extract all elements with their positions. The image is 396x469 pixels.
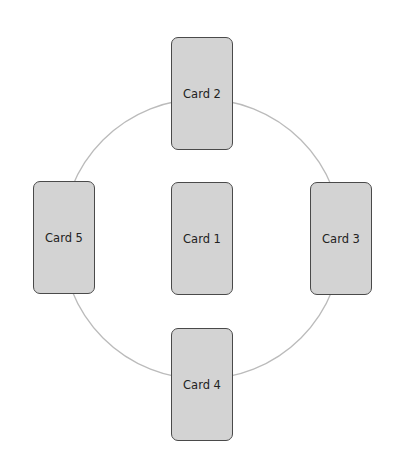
card-5: Card 5 (33, 181, 95, 294)
card-2: Card 2 (171, 37, 233, 150)
card-1-label: Card 1 (183, 232, 221, 246)
card-5-label: Card 5 (45, 231, 83, 245)
card-1: Card 1 (171, 182, 233, 295)
card-4: Card 4 (171, 328, 233, 441)
card-4-label: Card 4 (183, 378, 221, 392)
card-3: Card 3 (310, 182, 372, 295)
card-2-label: Card 2 (183, 87, 221, 101)
card-3-label: Card 3 (322, 232, 360, 246)
